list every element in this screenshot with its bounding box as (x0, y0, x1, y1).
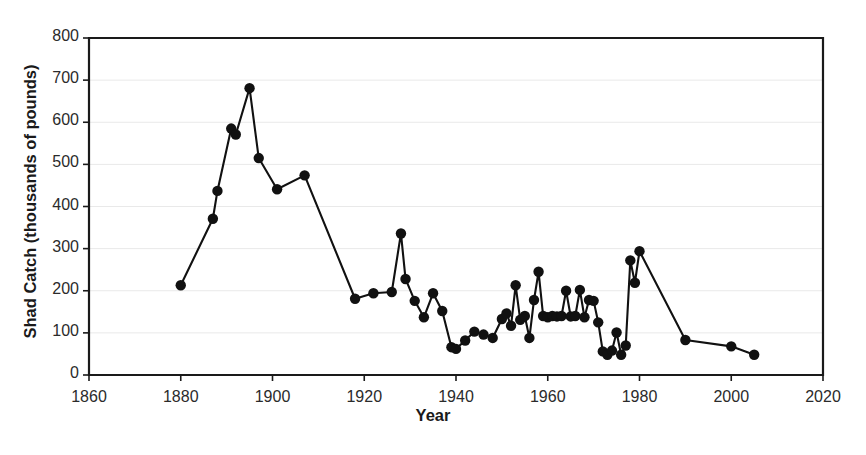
x-tick-label: 2000 (696, 388, 766, 406)
y-tick-label: 800 (23, 27, 79, 45)
x-tick-label: 1880 (146, 388, 216, 406)
axis-ticks (83, 38, 823, 381)
y-tick-label: 300 (23, 238, 79, 256)
chart-figure: Shad Catch Shad Catch (thousands of poun… (0, 0, 866, 455)
plot-area (0, 0, 866, 455)
y-tick-label: 700 (23, 69, 79, 87)
series-line-shad-catch (181, 88, 754, 355)
x-tick-label: 1940 (421, 388, 491, 406)
y-tick-label: 600 (23, 111, 79, 129)
x-tick-label: 1860 (54, 388, 124, 406)
x-tick-label: 1920 (329, 388, 399, 406)
y-tick-label: 0 (23, 364, 79, 382)
x-tick-label: 1900 (238, 388, 308, 406)
y-tick-label: 200 (23, 280, 79, 298)
y-tick-label: 400 (23, 196, 79, 214)
x-tick-label: 1980 (605, 388, 675, 406)
y-tick-label: 100 (23, 322, 79, 340)
x-tick-label: 2020 (788, 388, 858, 406)
series-markers-shad-catch (176, 83, 760, 360)
x-tick-label: 1960 (513, 388, 583, 406)
y-tick-label: 500 (23, 153, 79, 171)
gridlines (89, 38, 823, 333)
